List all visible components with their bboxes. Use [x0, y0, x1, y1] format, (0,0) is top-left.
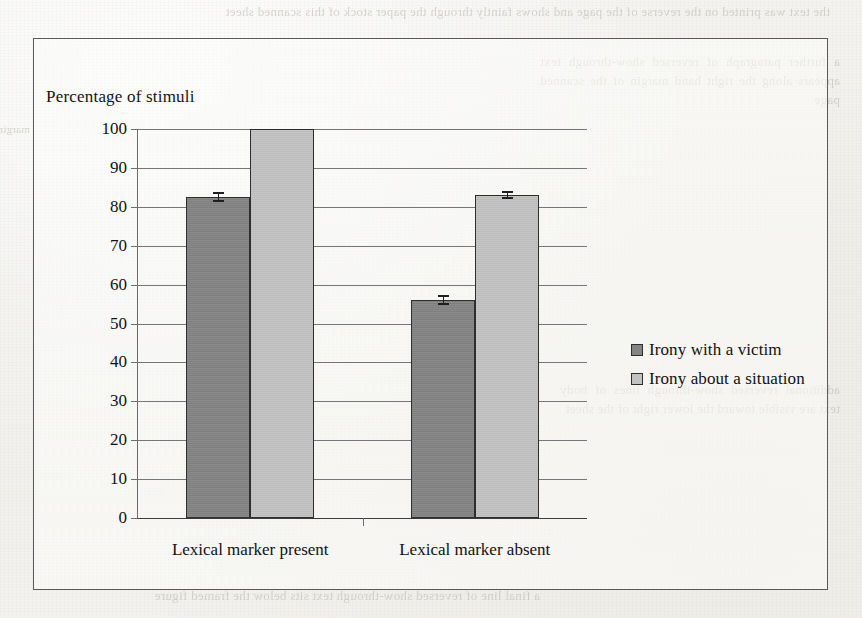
legend-item: Irony with a victim [631, 335, 805, 364]
error-bar-cap-top [502, 191, 513, 193]
y-tick-label-40: 40 [110, 352, 127, 372]
legend-item: Irony about a situation [631, 364, 805, 393]
error-bar [218, 192, 219, 201]
legend-swatch-icon [631, 344, 643, 356]
y-tick-label-10: 10 [110, 469, 127, 489]
error-bar-cap-bottom [438, 303, 449, 305]
legend-swatch-icon [631, 373, 643, 385]
y-tick-mark-10 [131, 479, 138, 480]
bar [475, 195, 539, 518]
bar [186, 197, 250, 518]
bar [250, 129, 314, 518]
chart-legend: Irony with a victimIrony about a situati… [631, 335, 805, 393]
error-bar-cap-bottom [502, 197, 513, 199]
y-tick-label-30: 30 [110, 391, 127, 411]
x-axis-label: Lexical marker absent [399, 540, 550, 560]
error-bar-cap-top [213, 192, 224, 194]
y-tick-label-50: 50 [110, 314, 127, 334]
bar [411, 300, 475, 518]
x-axis-divider [363, 518, 364, 526]
y-tick-mark-100 [131, 129, 138, 130]
y-tick-label-100: 100 [102, 119, 128, 139]
error-bar [507, 191, 508, 199]
y-tick-mark-80 [131, 207, 138, 208]
y-tick-mark-0 [131, 518, 138, 519]
y-tick-label-0: 0 [119, 508, 128, 528]
error-bar [443, 295, 444, 304]
error-bar-cap-top [438, 295, 449, 297]
y-tick-label-60: 60 [110, 275, 127, 295]
x-axis-label: Lexical marker present [172, 540, 329, 560]
y-tick-mark-30 [131, 401, 138, 402]
legend-label: Irony about a situation [649, 369, 805, 389]
gridline-90 [138, 168, 587, 169]
y-tick-mark-90 [131, 168, 138, 169]
error-bar-cap-bottom [213, 200, 224, 202]
y-tick-mark-50 [131, 324, 138, 325]
legend-label: Irony with a victim [649, 340, 782, 360]
y-tick-label-70: 70 [110, 236, 127, 256]
chart-frame: Percentage of stimuli 010203040506070809… [33, 38, 828, 590]
y-tick-mark-40 [131, 362, 138, 363]
chart-title: Percentage of stimuli [46, 87, 195, 107]
y-tick-label-20: 20 [110, 430, 127, 450]
y-tick-label-90: 90 [110, 158, 127, 178]
y-tick-mark-60 [131, 285, 138, 286]
y-tick-mark-20 [131, 440, 138, 441]
y-tick-mark-70 [131, 246, 138, 247]
gridline-100 [138, 129, 587, 130]
plot-area: 0102030405060708090100 [138, 129, 587, 518]
y-tick-label-80: 80 [110, 197, 127, 217]
